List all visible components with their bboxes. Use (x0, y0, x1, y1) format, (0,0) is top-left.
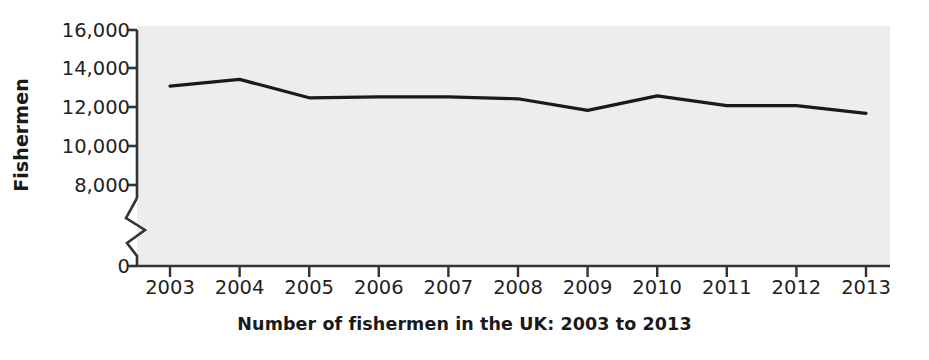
chart-title: Number of fishermen in the UK: 2003 to 2… (0, 314, 929, 334)
x-tick-label: 2003 (130, 276, 210, 299)
x-tick-label: 2008 (478, 276, 558, 299)
x-tick-label: 2005 (269, 276, 349, 299)
x-tick-label: 2013 (826, 276, 906, 299)
x-tick-label: 2004 (200, 276, 280, 299)
x-tick-label: 2010 (617, 276, 697, 299)
x-tick-label: 2006 (339, 276, 419, 299)
x-tick-label: 2011 (687, 276, 767, 299)
x-tick-label: 2007 (408, 276, 488, 299)
x-axis-tick-labels: 2003 2004 2005 2006 2007 2008 2009 2010 … (0, 276, 929, 306)
x-tick-label: 2012 (756, 276, 836, 299)
plot-background (137, 26, 890, 266)
y-axis-ticks (128, 30, 137, 266)
chart-container: Fishermen 16,000 14,000 12,000 10,000 8,… (0, 0, 929, 360)
x-tick-label: 2009 (548, 276, 628, 299)
plot-area (0, 0, 929, 360)
